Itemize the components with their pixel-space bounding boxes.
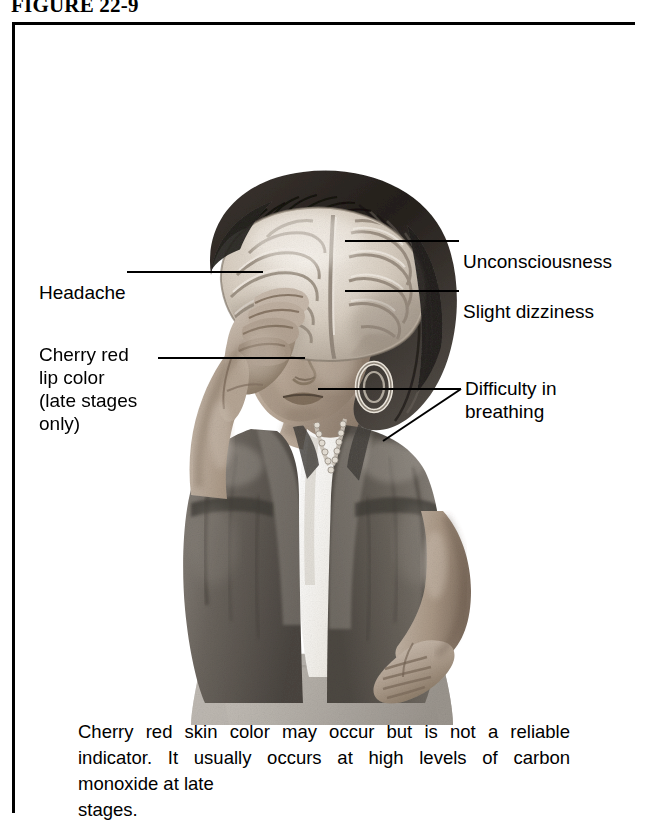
figure-number-label: FIGURE 22-9 [11,0,139,18]
figure-page: FIGURE 22-9 SIGNS AND SYMPTOMS OF CARBON… [0,0,647,825]
callout-unconsciousness: Unconsciousness [463,250,612,273]
callout-difficulty-breathing: Difficulty in breathing [465,377,557,423]
callout-headache: Headache [39,281,126,304]
figure-caption: Cherry red skin color may occur but is n… [78,719,570,823]
figure-caption-body: Cherry red skin color may occur but is n… [78,721,570,794]
callout-cherry-red-lip-color: Cherry red lip color (late stages only) [39,343,137,435]
figure-caption-last-line: stages. [78,797,570,823]
figure-frame: SIGNS AND SYMPTOMS OF CARBON MONOXIDE PO… [12,22,635,813]
callout-slight-dizziness: Slight dizziness [463,300,594,323]
